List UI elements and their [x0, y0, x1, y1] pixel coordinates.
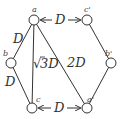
node-b-prime [106, 58, 116, 68]
label-top-arrow: D [54, 12, 66, 27]
label-edge-ab: D [12, 31, 24, 46]
label-c-prime: c' [84, 5, 91, 14]
label-c: c [36, 95, 41, 104]
node-c [27, 103, 37, 113]
node-c-prime [82, 15, 92, 25]
label-edge-aa2: 2D [66, 55, 86, 70]
label-a: a [32, 5, 37, 14]
hexagon-distance-diagram: a b c c' b' a' D D D D √ 3D 2D [0, 0, 122, 119]
label-bottom-arrow: D [53, 100, 65, 115]
node-a-prime [82, 103, 92, 113]
label-b-prime: b' [105, 49, 112, 58]
label-edge-ac-rest: 3D [40, 56, 59, 71]
node-a [29, 15, 39, 25]
label-a-prime: a' [87, 95, 94, 104]
label-edge-bc: D [4, 74, 16, 89]
label-b: b [3, 49, 8, 58]
node-b [6, 58, 16, 68]
